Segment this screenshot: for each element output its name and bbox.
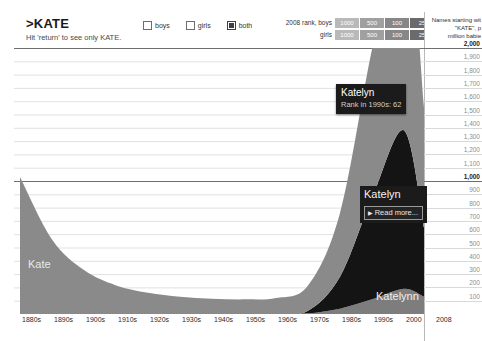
- tooltip-subtitle: Rank in 1990s: 62: [341, 100, 401, 110]
- chart-tooltip: Katelyn Rank in 1990s: 62: [336, 84, 406, 114]
- y-axis-tick-label: 500: [469, 240, 480, 247]
- side-panel-caption: Names starting wit "KATE", p million bab…: [425, 12, 482, 40]
- sex-filter-both-label: both: [239, 22, 253, 29]
- x-axis-tick-label: 2008: [436, 316, 452, 323]
- y-gridline: [424, 75, 482, 76]
- x-axis-labels: 1880s1890s1900s1910s1920s1930s1940s1950s…: [14, 316, 482, 336]
- y-gridline: [424, 115, 482, 116]
- y-axis-tick-label: 1,500: [464, 107, 480, 114]
- side-panel-caption-line1: Names starting wit: [429, 16, 481, 24]
- y-axis-tick-label: 700: [469, 213, 480, 220]
- y-axis-tick-label: 600: [469, 226, 480, 233]
- rank-legend-girls-label: girls: [276, 30, 335, 40]
- x-axis-tick-label: 2000: [406, 316, 422, 323]
- x-axis-tick-label: 1960s: [278, 316, 297, 323]
- x-axis-tick-label: 1970s: [310, 316, 329, 323]
- name-voyager-app: >KATE Hit 'return' to see only KATE. boy…: [0, 0, 482, 341]
- y-axis-tick-label: 1,900: [464, 53, 480, 60]
- rank-legend-cell[interactable]: 100: [385, 18, 409, 28]
- y-axis-tick-label: 1,300: [464, 133, 480, 140]
- y-gridline: [424, 194, 482, 195]
- sex-filter-boys[interactable]: boys: [143, 21, 170, 30]
- y-axis-tick-label: 400: [469, 253, 480, 260]
- y-axis-tick-label: 100: [469, 293, 480, 300]
- checkbox-boys-icon[interactable]: [143, 21, 152, 30]
- y-axis-tick-label: 1,700: [464, 80, 480, 87]
- y-axis-tick-label: 300: [469, 266, 480, 273]
- y-gridline: [424, 48, 482, 49]
- y-gridline: [424, 168, 482, 169]
- sex-filter-girls-label: girls: [198, 22, 211, 29]
- y-gridline: [424, 61, 482, 62]
- y-axis-tick-label: 2,000: [464, 40, 480, 47]
- area-label-katelynn[interactable]: Katelynn: [376, 290, 419, 302]
- rank-legend-boys-label: 2008 rank, boys: [276, 18, 335, 28]
- y-axis-tick-label: 1,800: [464, 67, 480, 74]
- x-axis-tick-label: 1980s: [342, 316, 361, 323]
- x-axis-tick-label: 1910s: [118, 316, 137, 323]
- y-gridline: [424, 128, 482, 129]
- x-axis-tick-label: 1990s: [374, 316, 393, 323]
- y-axis-tick-label: 1,100: [464, 160, 480, 167]
- read-more-panel: Katelyn ▶Read more...: [360, 186, 427, 223]
- y-gridline: [424, 234, 482, 235]
- y-axis-tick-label: 200: [469, 279, 480, 286]
- side-panel-caption-line3: million babie: [429, 32, 481, 40]
- search-query-text[interactable]: >KATE: [26, 17, 121, 31]
- app-header: >KATE Hit 'return' to see only KATE. boy…: [0, 0, 482, 48]
- y-gridline: [424, 181, 482, 182]
- read-more-button[interactable]: ▶Read more...: [364, 206, 423, 220]
- y-axis-tick-label: 1,400: [464, 120, 480, 127]
- tooltip-title: Katelyn: [341, 87, 401, 99]
- name-search-block: >KATE Hit 'return' to see only KATE.: [26, 17, 121, 43]
- read-more-button-label: Read more...: [375, 208, 418, 217]
- y-axis-tick-label: 1,200: [464, 146, 480, 153]
- checkbox-girls-icon[interactable]: [186, 21, 195, 30]
- x-axis-tick-label: 1890s: [54, 316, 73, 323]
- x-axis-tick-label: 1900s: [86, 316, 105, 323]
- x-axis-tick-label: 1930s: [182, 316, 201, 323]
- x-axis-tick-label: 1920s: [150, 316, 169, 323]
- play-caret-icon: ▶: [368, 210, 373, 216]
- y-gridline: [424, 274, 482, 275]
- y-gridline: [424, 221, 482, 222]
- rank-legend-cell[interactable]: 500: [360, 18, 384, 28]
- read-more-title: Katelyn: [364, 188, 423, 201]
- y-axis-tick-label: 1,600: [464, 93, 480, 100]
- area-label-kate[interactable]: Kate: [28, 258, 51, 270]
- search-hint-text: Hit 'return' to see only KATE.: [26, 33, 121, 43]
- rank-legend-cell[interactable]: 1000: [335, 30, 359, 40]
- y-gridline: [424, 301, 482, 302]
- y-gridline: [424, 287, 482, 288]
- y-gridline: [424, 88, 482, 89]
- y-gridline: [424, 154, 482, 155]
- y-gridline: [424, 101, 482, 102]
- side-panel-caption-line2: "KATE", p: [429, 24, 481, 32]
- x-axis-tick-label: 1950s: [246, 316, 265, 323]
- x-axis-tick-label: 1940s: [214, 316, 233, 323]
- sex-filter-both[interactable]: both: [227, 21, 253, 30]
- y-gridline: [424, 248, 482, 249]
- x-axis-tick-label: 1880s: [22, 316, 41, 323]
- rank-legend-cell[interactable]: 100: [385, 30, 409, 40]
- y-gridline: [424, 141, 482, 142]
- sex-filter-girls[interactable]: girls: [186, 21, 211, 30]
- rank-legend-cell[interactable]: 500: [360, 30, 384, 40]
- y-gridline: [424, 261, 482, 262]
- y-axis-tick-label: 800: [469, 200, 480, 207]
- checkbox-both-icon[interactable]: [227, 21, 236, 30]
- y-axis-labels: 2,0001,9001,8001,7001,6001,5001,4001,300…: [424, 48, 482, 314]
- y-gridline: [424, 208, 482, 209]
- sex-filter-boys-label: boys: [155, 22, 170, 29]
- sex-filter-group: boys girls both: [143, 21, 252, 30]
- y-axis-tick-label: 1,000: [464, 173, 480, 180]
- rank-legend-cell[interactable]: 1000: [335, 18, 359, 28]
- y-axis-tick-label: 900: [469, 186, 480, 193]
